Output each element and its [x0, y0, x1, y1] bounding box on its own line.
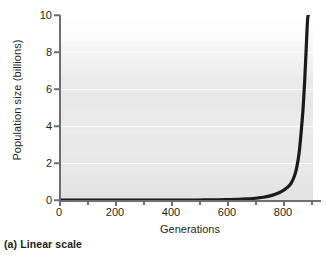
y-axis-label: Population size (billions)	[8, 0, 26, 200]
population-growth-curve	[60, 15, 313, 200]
y-tick-label: 10	[26, 10, 52, 21]
x-axis-line	[59, 200, 321, 202]
y-axis-line	[59, 15, 61, 201]
x-tick-label: 0	[56, 207, 62, 218]
y-tick-label: 8	[26, 47, 52, 58]
y-tick-label: 2	[26, 158, 52, 169]
x-tick-label: 800	[274, 207, 292, 218]
x-tick-mark-minor	[87, 201, 89, 205]
plot-area	[60, 15, 313, 200]
figure-caption: (a) Linear scale	[4, 238, 82, 250]
figure-linear-scale: Population size (billions) 0 2 4 6 8 10	[0, 0, 326, 257]
x-tick-label: 200	[106, 207, 124, 218]
y-tick-label: 0	[26, 195, 52, 206]
x-tick-label: 600	[218, 207, 236, 218]
x-axis-label: Generations	[59, 223, 321, 235]
x-tick-label: 400	[162, 207, 180, 218]
x-tick-mark-minor	[255, 201, 257, 205]
x-tick-mark-minor	[143, 201, 145, 205]
x-tick-mark-minor	[311, 201, 313, 205]
y-tick-label: 6	[26, 84, 52, 95]
y-tick-label: 4	[26, 121, 52, 132]
y-tick-label-group: 0 2 4 6 8 10	[26, 0, 52, 257]
x-tick-mark-minor	[199, 201, 201, 205]
